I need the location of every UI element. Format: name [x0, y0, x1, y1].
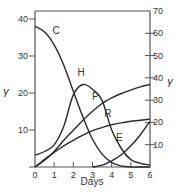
curve-label-r: R [104, 108, 111, 119]
tick-label: 4 [109, 170, 114, 180]
tick-label: 20 [18, 88, 28, 98]
left-y-axis: 10203040 [18, 14, 35, 167]
left-y-axis-title: γ [3, 85, 10, 97]
tick-label: 50 [153, 51, 163, 61]
curve-label-e: E [116, 132, 123, 143]
curve-label-p: P [92, 91, 99, 102]
tick-label: 30 [153, 95, 163, 105]
curve-label-c: C [52, 25, 59, 36]
tick-label: 60 [153, 28, 163, 38]
tick-label: 30 [18, 51, 28, 61]
tick-label: 40 [153, 73, 163, 83]
tick-label: 6 [147, 170, 152, 180]
line-chart: 10203040 10203040506070 0123456 CHPRE Da… [0, 0, 178, 192]
curve-labels: CHPRE [52, 25, 123, 144]
tick-label: 1 [52, 170, 57, 180]
x-axis-title: Days [81, 176, 104, 187]
tick-label: 10 [153, 140, 163, 150]
tick-label: 70 [153, 6, 163, 16]
tick-label: 10 [18, 125, 28, 135]
curve-label-h: H [77, 67, 84, 78]
tick-label: 40 [18, 14, 28, 24]
tick-label: 20 [153, 117, 163, 127]
tick-label: 5 [128, 170, 133, 180]
tick-label: 0 [32, 170, 37, 180]
tick-label: 2 [71, 170, 76, 180]
right-y-axis: 10203040506070 [145, 6, 163, 150]
right-y-axis-title: γ [167, 75, 174, 87]
